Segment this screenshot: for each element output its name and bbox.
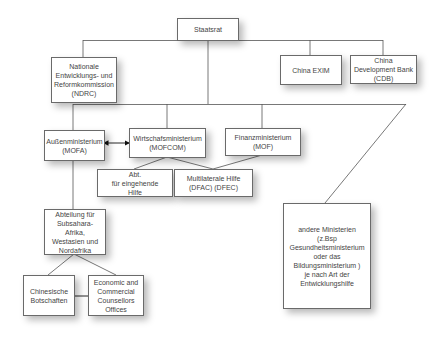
node-label: Nationale Entwicklungs- und Reformkommis…: [54, 62, 114, 98]
node-andere-ministerien: andere Ministerien (z.Bsp Gesundheitsmin…: [283, 203, 371, 309]
node-label: Finanzministerium (MOF): [235, 133, 292, 151]
node-botschaften: Chinesische Botschaften: [23, 275, 75, 316]
node-ndrc: Nationale Entwicklungs- und Reformkommis…: [51, 57, 117, 103]
node-label: andere Ministerien (z.Bsp Gesundheitsmin…: [289, 225, 364, 288]
node-mofcom: Wirtschafsministerium (MOFCOM): [129, 128, 206, 158]
node-mof: Finanzministerium (MOF): [225, 128, 301, 156]
node-abteilung-afrika: Abteilung für Subsahara-Afrika, Westasie…: [44, 209, 106, 255]
node-mofa: Außenministerium (MOFA): [44, 130, 105, 161]
node-abt-eingehende-hilfe: Abt. für eingehende Hilfe: [97, 169, 173, 197]
node-label: Abt. für eingehende Hilfe: [112, 170, 159, 197]
node-staatsrat: Staatsrat: [177, 18, 239, 41]
node-label: Staatsrat: [194, 25, 222, 34]
node-label: Außenministerium (MOFA): [46, 137, 102, 155]
node-cdb: China Development Bank (CDB): [350, 55, 417, 84]
node-label: China Development Bank (CDB): [354, 56, 413, 83]
node-label: Wirtschafsministerium (MOFCOM): [133, 134, 201, 152]
node-label: Economic and Commercial Counsellors Offi…: [94, 278, 138, 314]
node-china-exim: China EXIM: [280, 55, 342, 85]
node-label: Multilaterale Hilfe (DFAC) (DFEC): [187, 174, 241, 192]
node-counsellors: Economic and Commercial Counsellors Offi…: [88, 275, 144, 316]
node-label: Abteilung für Subsahara-Afrika, Westasie…: [47, 210, 103, 255]
node-label: China EXIM: [292, 66, 329, 75]
node-multilaterale-hilfe: Multilaterale Hilfe (DFAC) (DFEC): [174, 169, 253, 197]
node-label: Chinesische Botschaften: [30, 287, 68, 305]
org-chart-canvas: Staatsrat Nationale Entwicklungs- und Re…: [0, 0, 442, 339]
